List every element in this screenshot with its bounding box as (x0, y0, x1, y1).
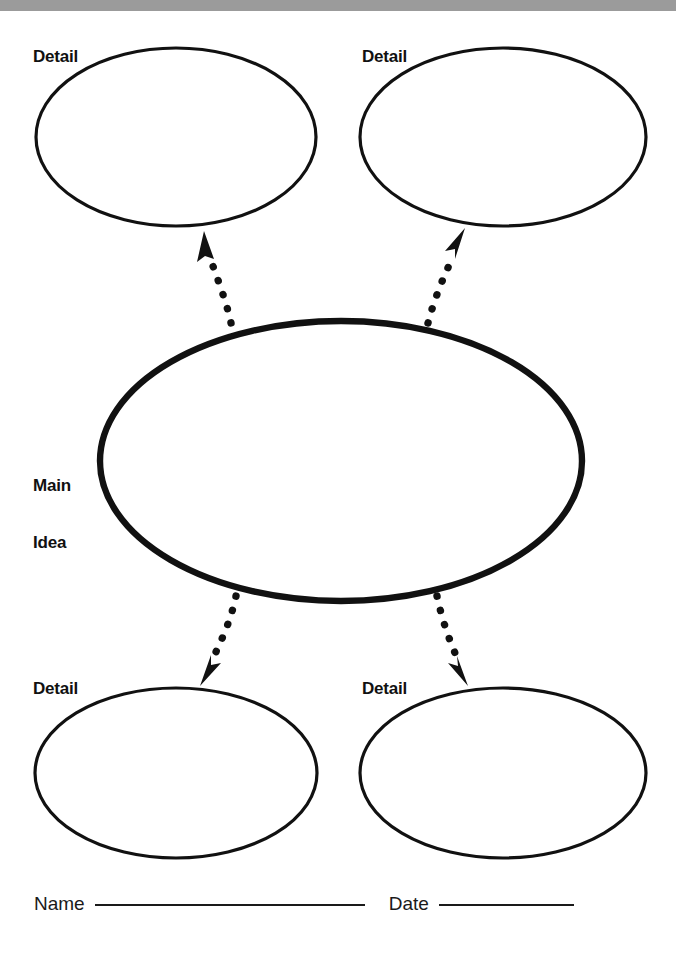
label-detail-bottom-right: Detail (362, 679, 407, 698)
detail-ellipse-top-left[interactable] (36, 48, 316, 226)
name-input-line[interactable] (95, 904, 365, 906)
detail-ellipse-bottom-left[interactable] (35, 688, 317, 858)
worksheet-page: Detail Detail Detail Detail Main Idea Na… (0, 0, 676, 966)
graphic-organizer-diagram (0, 0, 676, 966)
detail-ellipse-bottom-right[interactable] (360, 688, 646, 858)
detail-ellipse-top-right[interactable] (360, 48, 646, 226)
label-detail-bottom-left: Detail (33, 679, 78, 698)
label-detail-top-left: Detail (33, 47, 78, 66)
connector-arrow-to-top-left (197, 231, 231, 323)
date-label: Date (389, 893, 429, 915)
label-detail-top-right: Detail (362, 47, 407, 66)
name-label: Name (34, 893, 85, 915)
connector-arrow-to-bottom-right (437, 596, 468, 686)
connector-arrow-to-top-right (428, 228, 465, 323)
label-main-idea-line2: Idea (33, 533, 97, 552)
connector-arrow-to-bottom-left (200, 596, 236, 686)
worksheet-footer: Name Date (0, 893, 676, 933)
label-main-idea-line1: Main (33, 476, 97, 495)
main-idea-ellipse[interactable] (100, 321, 582, 601)
date-input-line[interactable] (439, 904, 574, 906)
label-main-idea: Main Idea (33, 438, 97, 590)
footer-fields-row: Name Date (34, 893, 646, 915)
